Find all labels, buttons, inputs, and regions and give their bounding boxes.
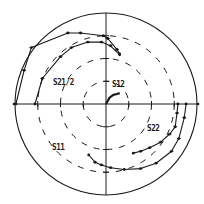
label-s11: S11 (52, 143, 65, 152)
data-point (15, 103, 18, 106)
label-s22: S22 (147, 124, 160, 133)
axis-end-dot (197, 103, 200, 106)
data-point (185, 103, 188, 106)
series-s21-2 (34, 41, 121, 106)
series-s12 (106, 93, 120, 104)
data-point (87, 154, 90, 157)
data-point (34, 103, 37, 106)
chart-traces (15, 32, 188, 171)
series-s21-2 (15, 32, 122, 106)
data-point (176, 103, 179, 106)
polar-chart (0, 0, 204, 204)
label-s12: S12 (112, 80, 125, 89)
data-point (132, 152, 135, 155)
series-s11 (87, 103, 187, 171)
label-s21: S21/2 (53, 78, 74, 87)
data-point (118, 53, 121, 56)
